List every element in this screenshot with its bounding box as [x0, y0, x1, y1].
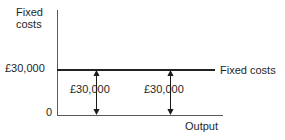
x-axis-line — [57, 115, 223, 116]
x-axis-title: Output — [185, 120, 218, 132]
fixed-costs-line-label: Fixed costs — [220, 64, 276, 76]
origin-label: 0 — [46, 106, 52, 118]
measure-label-1: £30,000 — [70, 83, 110, 95]
fixed-costs-line — [57, 69, 215, 71]
y-axis-line — [57, 10, 58, 116]
y-axis-tick-label-30000: £30,000 — [5, 62, 45, 74]
y-axis-title-line1: Fixed — [16, 6, 43, 18]
measure-label-2: £30,000 — [144, 83, 184, 95]
y-axis-title-line2: costs — [16, 18, 43, 30]
y-axis-title: Fixed costs — [16, 6, 43, 30]
fixed-costs-chart: Fixed costs £30,000 0 Fixed costs Output… — [0, 0, 285, 140]
